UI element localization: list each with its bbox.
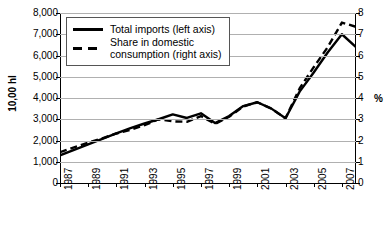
gridline — [60, 98, 356, 99]
y-axis-right-tick — [356, 56, 360, 57]
y-axis-right-tick — [356, 13, 360, 14]
x-axis-tick — [173, 183, 174, 187]
gridline — [60, 119, 356, 120]
y-axis-right-tick — [356, 162, 360, 163]
y-axis-right-tick — [356, 183, 360, 184]
x-axis-tick-label: 1989 — [92, 168, 102, 190]
legend-label-line2: consumption (right axis) — [110, 48, 221, 60]
x-axis-tick-label: 1999 — [233, 168, 243, 190]
y-axis-left-tick-label: 5,000 — [33, 72, 58, 82]
y-axis-left-tick-label: 8,000 — [33, 8, 58, 18]
x-axis-tick — [257, 183, 258, 187]
y-axis-left-tick — [56, 34, 60, 35]
gridline — [60, 141, 356, 142]
y-axis-right-tick — [356, 119, 360, 120]
dual-axis-line-chart: 10,00 hl 8,0007,0006,0005,0004,0003,0002… — [0, 0, 390, 226]
x-axis-tick — [286, 183, 287, 187]
y-axis-left-tick — [56, 141, 60, 142]
y-axis-left-tick-label: 1,000 — [33, 157, 58, 167]
y-axis-left-tick-labels: 8,0007,0006,0005,0004,0003,0002,0001,000… — [14, 13, 58, 183]
x-axis-tick-label: 1991 — [120, 168, 130, 190]
legend-solid-line-icon — [73, 23, 103, 35]
y-axis-left-tick-label: 7,000 — [33, 29, 58, 39]
y-axis-left-tick-label: 3,000 — [33, 114, 58, 124]
x-axis-tick — [60, 183, 61, 187]
y-axis-left-tick — [56, 119, 60, 120]
y-axis-left-tick — [56, 56, 60, 57]
y-axis-right-tick — [356, 34, 360, 35]
legend-dashed-line-icon — [73, 42, 103, 54]
y-axis-left-tick — [56, 77, 60, 78]
legend-label-share-domestic-consumption: Share in domestic consumption (right axi… — [110, 36, 221, 60]
legend-item-share-domestic-consumption: Share in domestic consumption (right axi… — [73, 36, 221, 60]
gridline — [60, 13, 356, 14]
x-axis-tick-label: 1997 — [205, 168, 215, 190]
x-axis-tick — [342, 183, 343, 187]
y-axis-left-tick-label: 6,000 — [33, 51, 58, 61]
x-axis-tick — [229, 183, 230, 187]
y-axis-right-tick-labels: 876543210 — [358, 13, 372, 183]
y-axis-right-tick — [356, 98, 360, 99]
gridline — [60, 162, 356, 163]
x-axis-tick-labels: 1987198919911993199519971999200120032005… — [60, 190, 356, 226]
x-axis-tick — [145, 183, 146, 187]
legend-label-line1: Share in domestic — [110, 36, 194, 48]
x-axis-tick-label: 1993 — [149, 168, 159, 190]
chart-legend: Total imports (left axis) Share in domes… — [66, 17, 230, 66]
legend-label-total-imports: Total imports (left axis) — [110, 23, 215, 35]
x-axis-tick-label: 1987 — [64, 168, 74, 190]
y-axis-right-title: % — [374, 93, 383, 104]
x-axis-tick-label: 2005 — [318, 168, 328, 190]
x-axis-tick — [116, 183, 117, 187]
y-axis-left-tick — [56, 162, 60, 163]
gridline — [60, 77, 356, 78]
y-axis-left-tick — [56, 98, 60, 99]
x-axis-tick-label: 1995 — [177, 168, 187, 190]
y-axis-left-tick — [56, 13, 60, 14]
y-axis-left-tick-label: 4,000 — [33, 93, 58, 103]
x-axis-tick-label: 2003 — [290, 168, 300, 190]
x-axis-tick — [314, 183, 315, 187]
y-axis-left-tick-label: 2,000 — [33, 136, 58, 146]
x-axis-tick-label: 2007 — [346, 168, 356, 190]
x-axis-tick — [201, 183, 202, 187]
x-axis-tick-label: 2001 — [261, 168, 271, 190]
y-axis-right-tick — [356, 77, 360, 78]
y-axis-right-tick — [356, 141, 360, 142]
x-axis-tick — [88, 183, 89, 187]
legend-item-total-imports: Total imports (left axis) — [73, 23, 221, 35]
